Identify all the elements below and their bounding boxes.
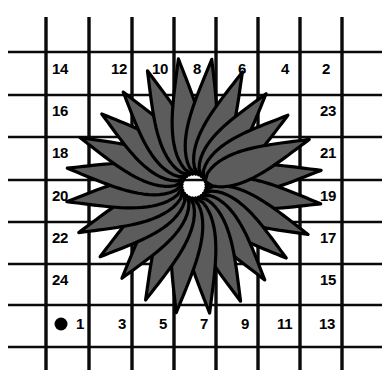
- tick-label-bottom-1: 1: [76, 316, 84, 331]
- tick-label-top-14: 14: [52, 61, 68, 76]
- origin-dot-marker: [55, 318, 68, 331]
- tick-label-top-6: 6: [238, 61, 246, 76]
- tick-label-top-8: 8: [193, 61, 201, 76]
- tick-label-right-23: 23: [320, 103, 336, 118]
- tick-label-left-24: 24: [52, 272, 68, 287]
- starburst-petals: [67, 59, 321, 313]
- tick-label-bottom-13: 13: [319, 316, 335, 331]
- tick-label-left-18: 18: [52, 145, 68, 160]
- tick-label-left-16: 16: [52, 103, 68, 118]
- tick-label-top-4: 4: [281, 61, 289, 76]
- tick-label-bottom-7: 7: [200, 316, 208, 331]
- tick-label-right-17: 17: [320, 230, 336, 245]
- tick-label-bottom-5: 5: [159, 316, 167, 331]
- tick-label-bottom-3: 3: [118, 316, 126, 331]
- tick-label-top-12: 12: [111, 61, 127, 76]
- tick-label-top-2: 2: [322, 61, 330, 76]
- tick-label-bottom-11: 11: [277, 316, 292, 331]
- tick-label-right-15: 15: [320, 272, 336, 287]
- tick-label-top-10: 10: [152, 61, 168, 76]
- tick-label-right-21: 21: [320, 145, 336, 160]
- tick-label-left-22: 22: [52, 230, 68, 245]
- tick-label-right-19: 19: [320, 188, 336, 203]
- starburst-grid-figure: 141210864216182022242321191715135791113: [0, 0, 386, 383]
- tick-label-left-20: 20: [52, 188, 68, 203]
- tick-label-bottom-9: 9: [241, 316, 249, 331]
